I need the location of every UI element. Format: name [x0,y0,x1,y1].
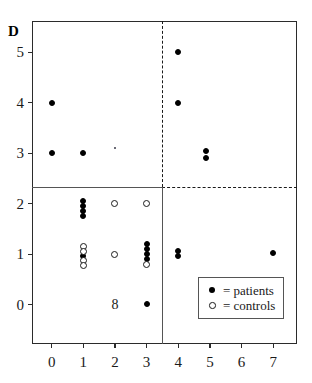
y-tick-label: 1 [6,247,24,262]
x-tick-label: 6 [233,355,251,370]
x-tick-mark [83,343,84,348]
y-tick-mark [28,203,33,204]
legend: = patients= controls [198,277,284,319]
y-tick-label: 2 [6,197,24,212]
y-tick-mark [28,52,33,53]
x-tick-mark [178,343,179,348]
x-tick-mark [209,343,210,348]
y-tick-mark [28,254,33,255]
y-tick-label: 4 [6,96,24,111]
x-tick-label: 3 [138,355,156,370]
x-tick-label: 0 [43,355,61,370]
x-tick-mark [51,343,52,348]
y-tick-label: 5 [6,45,24,60]
data-point-patients [144,301,150,307]
x-tick-label: 7 [264,355,282,370]
x-tick-mark [273,343,274,348]
open-circle-icon [206,302,219,309]
panel-label: D [8,24,19,39]
horizontal-reference-line [32,187,162,188]
scatter-plot-figure: D 01234501234567 8 = patients= controls [0,0,312,383]
legend-row: = patients [206,283,275,298]
y-tick-mark [28,153,33,154]
y-tick-label: 3 [6,146,24,161]
legend-label: = controls [223,299,275,312]
count-label-8: 8 [108,298,122,312]
data-point-patients [203,148,209,154]
y-tick-mark [28,304,33,305]
data-point-controls [80,262,87,269]
filled-circle-icon [206,287,219,293]
y-tick-label: 0 [6,298,24,313]
vertical-reference-line [162,21,163,187]
x-tick-mark [114,343,115,348]
horizontal-reference-line [162,187,297,188]
x-tick-label: 2 [106,355,124,370]
data-point-patients [49,100,55,106]
data-point-patients [49,150,55,156]
legend-label: = patients [223,284,274,297]
x-tick-label: 1 [74,355,92,370]
data-point-controls [80,248,87,255]
legend-marker [209,287,215,293]
vertical-reference-line [162,187,163,344]
x-tick-label: 5 [201,355,219,370]
x-tick-label: 4 [169,355,187,370]
legend-marker [209,302,216,309]
x-tick-mark [146,343,147,348]
y-tick-mark [28,102,33,103]
x-tick-mark [241,343,242,348]
legend-row: = controls [206,298,275,313]
